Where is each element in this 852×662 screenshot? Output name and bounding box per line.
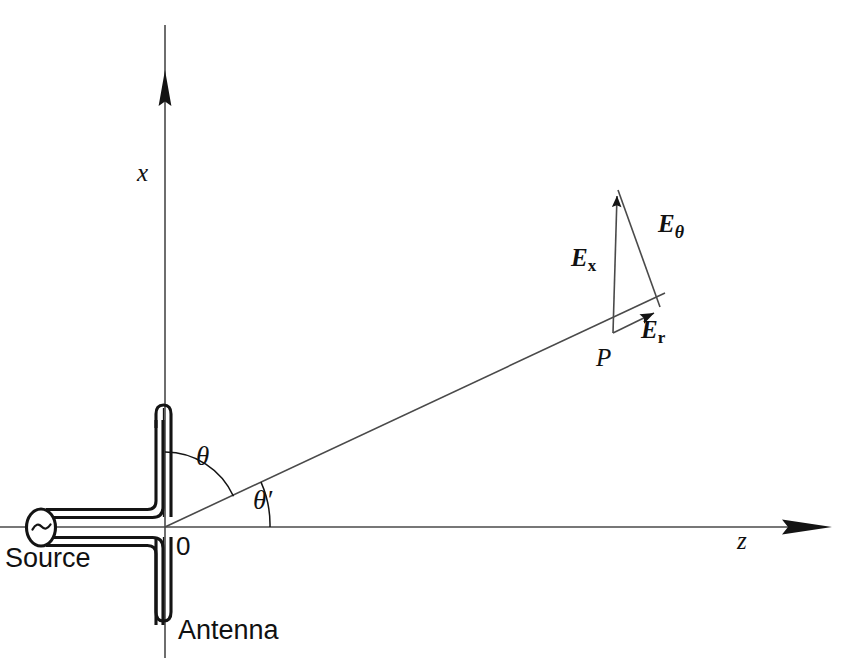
vector-Ex-symbol: E: [571, 244, 588, 271]
x-axis-label: x: [137, 160, 148, 185]
dipole-antenna: [156, 405, 171, 621]
point-p-label: P: [596, 345, 611, 370]
antenna-field-diagram: x z 0 Source Antenna θ θ′ P Ex Er Eθ: [0, 0, 852, 662]
z-axis-label: z: [737, 528, 747, 553]
radial-ray: [165, 293, 665, 527]
vector-Etheta-label: Eθ: [658, 211, 684, 241]
theta-label: θ: [196, 443, 209, 470]
vector-Er-label: Er: [641, 317, 665, 346]
source-label: Source: [5, 545, 91, 572]
z-axis-arrowhead: [782, 519, 832, 534]
transmission-line: [46, 420, 163, 625]
source-symbol: [27, 509, 56, 546]
z-axis: [0, 519, 832, 534]
field-vector-triangle: [613, 190, 660, 333]
vector-Ex-label: Ex: [571, 245, 596, 274]
origin-label: 0: [176, 533, 190, 559]
vector-Ex: [613, 196, 617, 333]
antenna-label: Antenna: [178, 617, 279, 644]
vector-Er-subscript: r: [658, 328, 666, 347]
vector-Ex-subscript: x: [588, 256, 597, 275]
x-axis-arrowhead: [159, 70, 172, 106]
ray-line: [165, 293, 665, 527]
diagram-canvas: [0, 0, 852, 662]
theta-prime-label: θ′: [253, 487, 272, 514]
vector-Er-symbol: E: [641, 316, 658, 343]
vector-Etheta: [618, 190, 660, 307]
vector-Etheta-subscript: θ: [675, 222, 684, 242]
vector-Etheta-symbol: E: [658, 210, 675, 237]
